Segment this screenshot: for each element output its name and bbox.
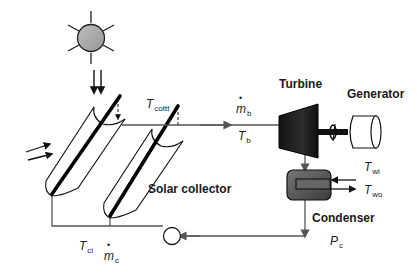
generator-label: Generator — [347, 87, 404, 101]
condenser-icon — [287, 170, 331, 200]
sun-icon — [68, 11, 114, 64]
water-inlet-temp-label: Twi — [364, 160, 380, 176]
solar-collector-1 — [46, 96, 125, 196]
boiler-mass-flow-label: mb — [236, 102, 251, 118]
collector-mass-flow-label: mc — [104, 249, 119, 265]
collector-outlet-temp-label: Tcottt — [146, 97, 169, 113]
cooling-water-arrows — [330, 180, 356, 189]
solar-collector-2 — [104, 106, 183, 218]
solar-collector-label: Solar collector — [148, 182, 231, 196]
condenser-label: Condenser — [312, 211, 375, 225]
diffuse-radiation-arrows — [26, 144, 52, 160]
solar-power-cycle-diagram — [0, 0, 417, 277]
turbine-label: Turbine — [279, 77, 322, 91]
boiler-temp-label: Tb — [238, 129, 251, 145]
turbine-icon — [279, 104, 318, 158]
water-outlet-temp-label: Two — [364, 183, 383, 199]
solar-radiation-arrows — [94, 70, 101, 93]
condenser-pressure-label: Pc — [330, 234, 343, 250]
generator-icon — [350, 116, 381, 148]
shaft-coupling — [318, 124, 348, 141]
collector-inlet-temp-label: Tci — [79, 239, 93, 255]
pump-icon — [164, 228, 181, 245]
